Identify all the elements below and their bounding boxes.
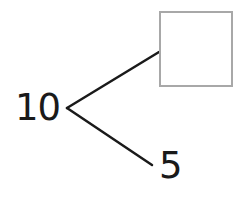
number-bond-diagram: 10 5 — [0, 0, 249, 206]
known-part-number: 5 — [159, 147, 183, 184]
empty-answer-box[interactable] — [159, 11, 233, 87]
connector-line-lower — [67, 108, 152, 165]
connector-line-upper — [67, 52, 159, 108]
whole-number: 10 — [15, 89, 60, 126]
